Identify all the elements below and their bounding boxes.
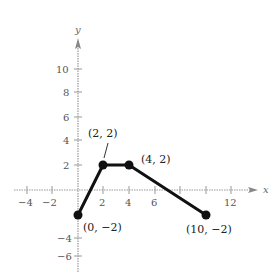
- graph: x −4 −2 2 4 6 12 y 10 8 6 4 2 −4 −6: [0, 0, 274, 280]
- x-axis: x −4 −2 2 4 6 12: [14, 184, 269, 208]
- x-tick-label: −2: [42, 197, 57, 208]
- x-tick-label: 4: [125, 197, 131, 208]
- x-tick-label: 12: [224, 197, 237, 208]
- y-axis-label: y: [74, 24, 81, 35]
- x-axis-label: x: [263, 184, 269, 195]
- x-tick-label: 6: [151, 197, 157, 208]
- point-label: (2, 2): [88, 127, 118, 140]
- data-point: [99, 161, 108, 170]
- y-tick-label: 8: [63, 87, 69, 98]
- y-tick-label: 4: [63, 135, 69, 146]
- y-tick-label: 2: [63, 160, 69, 171]
- data-point: [74, 211, 83, 220]
- y-arrow-icon: [75, 38, 81, 49]
- y-tick-label: −6: [57, 251, 72, 262]
- data-point: [202, 211, 211, 220]
- y-axis: y 10 8 6 4 2 −4 −6: [56, 24, 82, 272]
- data-point: [125, 161, 134, 170]
- point-label: (10, −2): [186, 223, 232, 236]
- y-tick-label: 10: [56, 64, 69, 75]
- x-tick-label: 2: [99, 197, 105, 208]
- point-label: (4, 2): [141, 153, 171, 166]
- y-tick-label: −4: [57, 233, 72, 244]
- y-tick-label: 6: [63, 112, 69, 123]
- x-tick-label: −4: [18, 197, 33, 208]
- leader-line: [104, 143, 108, 158]
- point-label: (0, −2): [83, 221, 122, 234]
